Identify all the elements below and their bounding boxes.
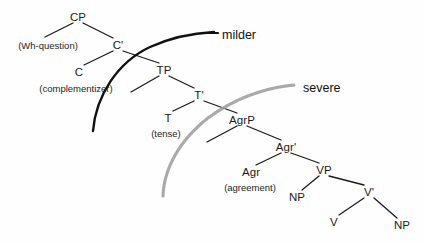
- tree-node-agrbar: Agr': [276, 141, 297, 153]
- branch-tp-spec: [131, 76, 159, 92]
- tree-node-vp: VP: [316, 164, 332, 176]
- tree-node-tp: TP: [157, 64, 172, 76]
- scope-arcs: [93, 32, 295, 196]
- branch-lines: [45, 23, 397, 218]
- arc-label-severe: severe: [303, 81, 341, 95]
- gloss-label-wh: (Wh-question): [18, 40, 78, 51]
- branch-tp-tbar: [169, 76, 194, 88]
- branch-tbar-t: [173, 101, 194, 111]
- syntax-tree-diagram: CPC'CTPT'TAgrPAgr'AgrVPNPV'VNP (Wh-quest…: [0, 0, 424, 243]
- tree-node-v: V: [330, 216, 338, 228]
- branch-cp-spec: [45, 23, 73, 37]
- tree-node-cp: CP: [70, 11, 86, 23]
- tree-node-cbar: C': [113, 39, 124, 51]
- arc-label-milder: milder: [222, 28, 256, 42]
- branch-agrp-agrbar: [247, 126, 281, 140]
- tree-node-np2: NP: [394, 219, 410, 231]
- tree-node-vbar: V': [364, 186, 374, 198]
- branch-vp-vbar: [329, 176, 364, 185]
- tree-node-np1: NP: [289, 191, 305, 203]
- branch-vp-np1: [302, 176, 319, 190]
- branch-agrbar-vp: [291, 153, 319, 163]
- branch-cbar-c: [84, 51, 113, 65]
- tree-node-t: T: [164, 112, 171, 124]
- branch-vbar-np2: [374, 198, 397, 218]
- milder-arc: [93, 32, 214, 131]
- branch-agrp-spec: [207, 126, 237, 142]
- gloss-label-tense: (tense): [151, 128, 181, 139]
- tree-node-c: C: [75, 66, 83, 78]
- tree-node-agrp: AgrP: [229, 114, 255, 126]
- tree-branch-layer: [0, 0, 424, 243]
- branch-vbar-v: [339, 198, 364, 215]
- gloss-label-complementizer: (complementizer): [39, 83, 112, 94]
- branch-agrbar-agr: [256, 153, 281, 165]
- tree-node-tbar: T': [194, 89, 203, 101]
- branch-cp-cbar: [83, 23, 113, 38]
- gloss-label-agreement: (agreement): [224, 182, 276, 193]
- tree-node-agr: Agr: [242, 166, 260, 178]
